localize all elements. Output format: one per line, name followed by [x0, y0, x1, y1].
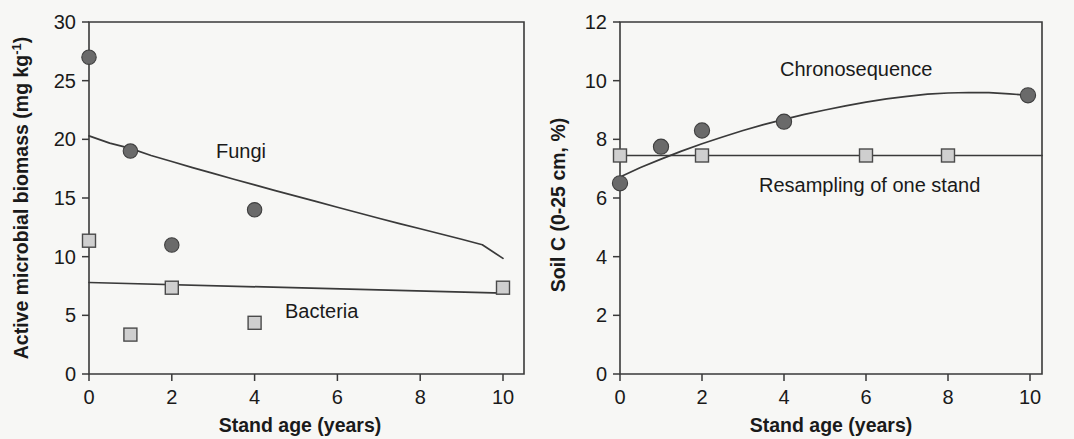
right-chronosequence-point-10: [1020, 88, 1035, 103]
right-xticklabel-2: 2: [696, 386, 707, 408]
left-yaxis-title: Active microbial biomass (mg kg-1): [9, 37, 32, 360]
right-xticklabel-4: 4: [778, 386, 789, 408]
right-x-ticks: [620, 374, 1030, 381]
left-y-ticklabels: 0 5 10 15 20 25 30: [54, 11, 76, 385]
figure-two-panel-chart: 0 5 10 15 20 25 30 0 2 4: [0, 0, 1074, 439]
left-xticklabel-6: 6: [332, 386, 343, 408]
left-fungi-point-4: [247, 203, 261, 217]
left-y-ticks: [82, 22, 89, 374]
right-resampling-point-6: [860, 149, 873, 162]
left-yaxis-title-suffix: ): [10, 37, 32, 44]
right-yaxis-title: Soil C (0-25 cm, %): [547, 118, 569, 292]
left-bacteria-point-10: [497, 281, 510, 294]
left-fungi-point-1: [123, 144, 137, 158]
right-xaxis-title: Stand age (years): [750, 414, 913, 436]
left-bacteria-fit-line: [89, 283, 503, 294]
left-x-ticks: [89, 374, 503, 381]
left-xaxis-title: Stand age (years): [219, 414, 382, 436]
right-yticklabel-4: 4: [596, 246, 607, 268]
left-yticklabel-15: 15: [54, 187, 76, 209]
right-resampling-point-8: [942, 149, 955, 162]
right-chronosequence-point-4: [776, 114, 791, 129]
right-resampling-point-2: [696, 149, 709, 162]
left-xticklabel-10: 10: [492, 386, 514, 408]
right-yticklabel-8: 8: [596, 128, 607, 150]
left-fungi-fit-curve: [89, 136, 503, 259]
right-y-ticks: [613, 22, 620, 374]
left-yticklabel-25: 25: [54, 70, 76, 92]
right-xticklabel-0: 0: [614, 386, 625, 408]
right-chronosequence-point-1: [653, 139, 668, 154]
panel-active-microbial-biomass: 0 5 10 15 20 25 30 0 2 4: [0, 0, 537, 439]
left-yticklabel-30: 30: [54, 11, 76, 33]
left-xticklabel-2: 2: [166, 386, 177, 408]
left-x-ticklabels: 0 2 4 6 8 10: [83, 386, 514, 408]
right-chronosequence-point-0: [612, 176, 627, 191]
right-yticklabel-2: 2: [596, 304, 607, 326]
left-bacteria-point-4: [248, 316, 261, 329]
left-annotation-fungi: Fungi: [216, 140, 266, 162]
right-yticklabel-6: 6: [596, 187, 607, 209]
left-yticklabel-0: 0: [65, 363, 76, 385]
left-fungi-point-2: [165, 238, 179, 252]
right-xticklabel-10: 10: [1019, 386, 1041, 408]
left-bacteria-point-0: [83, 234, 96, 247]
left-annotation-bacteria: Bacteria: [285, 300, 359, 322]
left-yticklabel-20: 20: [54, 128, 76, 150]
left-yaxis-title-superscript: -1: [9, 43, 24, 55]
right-chronosequence-point-2: [694, 123, 709, 138]
right-yticklabel-12: 12: [585, 11, 607, 33]
left-xticklabel-4: 4: [249, 386, 260, 408]
left-bacteria-point-1: [124, 328, 137, 341]
right-panel-svg: 0 2 4 6 8 10 12 0 2 4: [537, 0, 1074, 439]
right-resampling-point-0: [614, 149, 627, 162]
left-xticklabel-0: 0: [83, 386, 94, 408]
left-panel-svg: 0 5 10 15 20 25 30 0 2 4: [0, 0, 537, 439]
left-yticklabel-5: 5: [65, 304, 76, 326]
left-fungi-point-0: [82, 50, 96, 64]
right-yticklabel-0: 0: [596, 363, 607, 385]
panel-soil-carbon: 0 2 4 6 8 10 12 0 2 4: [537, 0, 1074, 439]
right-y-ticklabels: 0 2 4 6 8 10 12: [585, 11, 607, 385]
right-annotation-chronosequence: Chronosequence: [780, 58, 932, 80]
right-xticklabel-6: 6: [860, 386, 871, 408]
left-yaxis-title-main: Active microbial biomass (mg kg: [10, 55, 32, 360]
left-yticklabel-10: 10: [54, 246, 76, 268]
right-yticklabel-10: 10: [585, 70, 607, 92]
left-xticklabel-8: 8: [415, 386, 426, 408]
right-x-ticklabels: 0 2 4 6 8 10: [614, 386, 1041, 408]
right-chronosequence-fit-curve: [620, 93, 1030, 177]
right-xticklabel-8: 8: [942, 386, 953, 408]
left-bacteria-point-2: [165, 281, 178, 294]
right-annotation-resampling: Resampling of one stand: [759, 174, 980, 196]
